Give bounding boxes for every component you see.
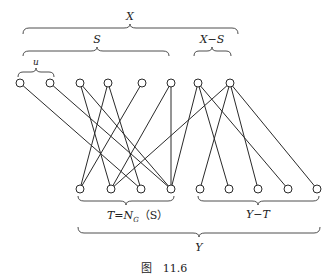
vertex-s6 [167, 79, 175, 87]
vertex-r2 [226, 79, 234, 87]
brace-y [78, 227, 320, 237]
vertex-t3 [137, 185, 145, 193]
brace-y-minus-t [198, 196, 319, 205]
vertex-t1 [76, 185, 84, 193]
brace-s [23, 47, 169, 56]
bipartite-graph-figure: X S X−S u T=NG（S） Y−T Y 图 11.6 [0, 0, 334, 280]
edge-s6-t2 [111, 83, 171, 189]
label-x: X [125, 10, 135, 23]
edge-s1-t3 [20, 83, 141, 189]
vertex-t4 [167, 185, 175, 193]
edge-r1-t4 [171, 83, 198, 189]
vertex-s4 [104, 79, 112, 87]
vertex-s2 [46, 79, 54, 87]
edge-s4-t3 [108, 83, 141, 189]
vertex-y2 [225, 185, 233, 193]
brace-t [78, 196, 174, 205]
label-u: u [33, 57, 39, 67]
vertex-r1 [194, 79, 202, 87]
vertex-y3 [254, 185, 262, 193]
vertex-t2 [107, 185, 115, 193]
label-y-minus-t: Y−T [246, 208, 271, 221]
label-t-tail: （S） [139, 209, 169, 222]
vertex-y5 [313, 185, 321, 193]
label-t-main: T=N [107, 209, 134, 222]
brace-x-minus-s [194, 47, 231, 56]
vertex-y1 [196, 185, 204, 193]
edges-group [20, 83, 317, 189]
figure-caption: 图 11.6 [141, 262, 188, 275]
label-y: Y [195, 241, 204, 254]
edge-s5-t1 [80, 83, 142, 189]
vertex-s3 [76, 79, 84, 87]
label-t: T=NG（S） [107, 209, 168, 224]
vertex-y4 [284, 185, 292, 193]
label-s: S [93, 33, 101, 46]
vertex-s1 [16, 79, 24, 87]
edge-r1-y2 [198, 83, 229, 189]
vertices-group [16, 79, 321, 193]
brace-u [18, 68, 54, 77]
edge-r2-y1 [200, 83, 230, 189]
edge-r2-y3 [230, 83, 258, 189]
label-x-minus-s: X−S [199, 33, 225, 46]
vertex-s5 [138, 79, 146, 87]
